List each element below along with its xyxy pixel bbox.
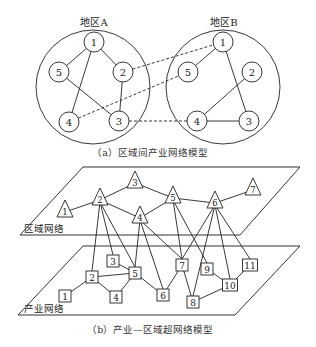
industry-node-square: 3 xyxy=(107,255,119,267)
region-node-triangle: 5 xyxy=(165,186,181,203)
node-label: 3 xyxy=(132,178,137,188)
caption-a: （a）区域间产业网络模型 xyxy=(92,147,208,158)
industry-node-square: 8 xyxy=(187,296,199,308)
node-label: 2 xyxy=(249,67,255,78)
industry-node-circle: 2 xyxy=(113,62,133,82)
industry-link xyxy=(223,42,249,121)
region-label: 地区B xyxy=(210,16,237,28)
node-label: 1 xyxy=(91,37,97,48)
industry-node-square: 2 xyxy=(86,271,98,283)
node-label: 4 xyxy=(194,116,200,127)
node-label: 6 xyxy=(160,291,166,301)
node-label: 3 xyxy=(110,257,116,267)
region-network-layer: 区域网络 xyxy=(20,167,300,235)
industry-node-square: 1 xyxy=(59,290,71,302)
node-label: 1 xyxy=(62,207,67,217)
node-label: 5 xyxy=(132,269,138,279)
region-node-triangle: 7 xyxy=(245,178,261,195)
industry-node-square: 4 xyxy=(110,291,122,303)
industry-region-supernetwork-diagram: 地区A地区B1234512345（a）区域间产业网络模型 产业网络区域网络123… xyxy=(0,0,316,347)
region-layer-label: 区域网络 xyxy=(24,223,64,234)
industry-region-link xyxy=(92,202,100,271)
node-label: 7 xyxy=(179,261,185,271)
industry-layer-label: 产业网络 xyxy=(24,303,64,314)
industry-link xyxy=(69,42,94,122)
industry-region-link xyxy=(182,205,215,259)
industry-node-square: 7 xyxy=(176,259,188,271)
industry-region-supernetwork-panel: 产业网络区域网络12345678910111234567（b）产业—区域超网络模… xyxy=(18,167,300,335)
node-label: 4 xyxy=(66,117,72,128)
region-node-triangle: 1 xyxy=(57,200,73,217)
industry-node-circle: 5 xyxy=(178,62,198,82)
industry-region-link xyxy=(193,205,215,296)
interregional-link xyxy=(133,45,214,69)
node-label: 1 xyxy=(220,37,226,48)
industry-node-square: 10 xyxy=(223,279,238,291)
industry-region-link xyxy=(100,202,113,255)
industry-region-link xyxy=(135,220,140,267)
node-label: 5 xyxy=(56,67,62,78)
node-label: 2 xyxy=(97,195,102,205)
node-label: 3 xyxy=(116,116,122,127)
industry-node-circle: 1 xyxy=(84,32,104,52)
node-label: 11 xyxy=(244,261,255,271)
node-label: 7 xyxy=(250,185,255,195)
industry-node-circle: 3 xyxy=(109,111,129,131)
region-node-triangle: 3 xyxy=(127,171,143,188)
industry-node-circle: 2 xyxy=(242,62,262,82)
node-label: 4 xyxy=(113,293,119,303)
region-label: 地区A xyxy=(80,16,108,28)
industry-node-square: 11 xyxy=(243,259,258,271)
industry-node-square: 5 xyxy=(129,267,141,279)
node-label: 5 xyxy=(185,67,191,78)
industry-node-circle: 1 xyxy=(213,32,233,52)
node-label: 4 xyxy=(137,213,142,223)
interregional-industry-network-panel: 地区A地区B1234512345（a）区域间产业网络模型 xyxy=(36,16,280,158)
node-label: 1 xyxy=(62,292,68,302)
node-label: 3 xyxy=(246,116,252,127)
node-label: 5 xyxy=(170,193,175,203)
caption-b: （b）产业—区域超网络模型 xyxy=(87,324,213,335)
industry-node-square: 6 xyxy=(157,289,169,301)
region-node-triangle: 6 xyxy=(207,191,223,208)
region-node-triangle: 2 xyxy=(92,188,108,205)
industry-node-circle: 4 xyxy=(59,112,79,132)
node-label: 10 xyxy=(224,281,236,291)
interregional-link xyxy=(78,76,179,118)
industry-node-circle: 4 xyxy=(187,111,207,131)
industry-node-circle: 3 xyxy=(239,111,259,131)
industry-network-layer: 产业网络 xyxy=(18,246,300,315)
industry-node-circle: 5 xyxy=(49,62,69,82)
node-label: 9 xyxy=(204,265,210,275)
node-label: 2 xyxy=(89,273,95,283)
node-label: 6 xyxy=(212,198,217,208)
industry-node-square: 9 xyxy=(201,263,213,275)
node-label: 2 xyxy=(120,67,126,78)
node-label: 8 xyxy=(190,298,196,308)
